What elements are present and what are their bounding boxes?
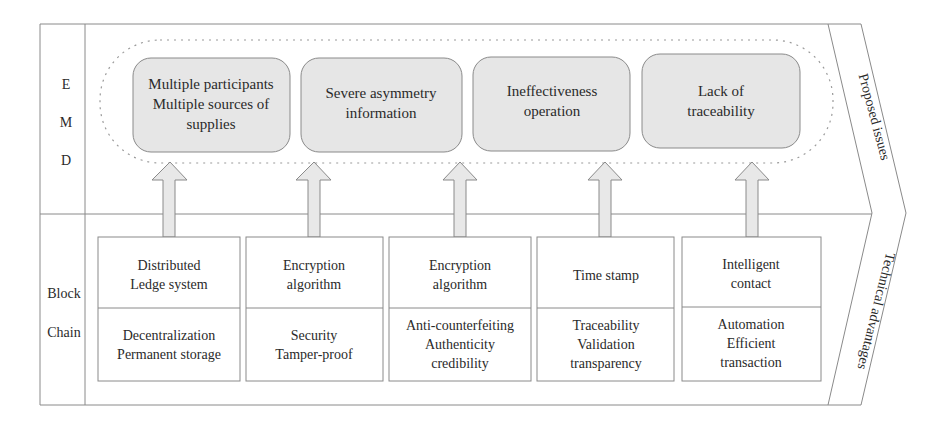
svg-text:information: information xyxy=(346,105,417,121)
tech-box-4: Time stamp Traceability Validation trans… xyxy=(537,237,674,381)
issue-box-1: Multiple participants Multiple sources o… xyxy=(133,58,290,152)
issue-box-2: Severe asymmetry information xyxy=(301,58,462,152)
svg-text:algorithm: algorithm xyxy=(287,277,342,292)
svg-text:Efficient: Efficient xyxy=(727,336,776,351)
tech-box-5: Intelligent contact Automation Efficient… xyxy=(682,237,821,381)
svg-text:M: M xyxy=(60,115,73,130)
svg-text:E: E xyxy=(62,77,71,92)
svg-text:Chain: Chain xyxy=(47,325,80,340)
svg-text:Traceability: Traceability xyxy=(572,318,639,333)
svg-text:Distributed: Distributed xyxy=(138,258,201,273)
svg-text:algorithm: algorithm xyxy=(433,277,488,292)
svg-text:Ineffectiveness: Ineffectiveness xyxy=(507,83,598,99)
svg-text:traceability: traceability xyxy=(687,103,755,119)
svg-text:credibility: credibility xyxy=(431,356,489,371)
svg-text:Multiple participants: Multiple participants xyxy=(148,76,274,92)
issue-box-3: Ineffectiveness operation xyxy=(473,57,630,151)
svg-text:Intelligent: Intelligent xyxy=(722,257,780,272)
svg-text:Multiple sources of: Multiple sources of xyxy=(153,96,270,112)
svg-text:Decentralization: Decentralization xyxy=(123,328,216,343)
svg-text:contact: contact xyxy=(731,276,772,291)
svg-text:Lack of: Lack of xyxy=(698,83,744,99)
svg-text:D: D xyxy=(61,153,71,168)
svg-text:Encryption: Encryption xyxy=(429,258,491,273)
svg-text:Anti-counterfeiting: Anti-counterfeiting xyxy=(406,318,514,333)
svg-text:Permanent storage: Permanent storage xyxy=(117,347,221,362)
svg-text:Time stamp: Time stamp xyxy=(573,268,639,283)
svg-text:transparency: transparency xyxy=(570,356,642,371)
issue-box-4: Lack of traceability xyxy=(642,54,800,148)
emd-blockchain-diagram: E M D Block Chain Proposed issues Techni… xyxy=(0,0,942,429)
svg-text:supplies: supplies xyxy=(186,116,235,132)
svg-text:Validation: Validation xyxy=(577,337,635,352)
svg-text:Block: Block xyxy=(47,286,80,301)
svg-text:Automation: Automation xyxy=(718,317,785,332)
tech-box-1: Distributed Ledge system Decentralizatio… xyxy=(98,237,240,381)
svg-text:Encryption: Encryption xyxy=(283,258,345,273)
svg-text:transaction: transaction xyxy=(720,355,781,370)
svg-text:Authenticity: Authenticity xyxy=(425,337,495,352)
svg-text:Tamper-proof: Tamper-proof xyxy=(275,347,353,362)
tech-box-3: Encryption algorithm Anti-counterfeiting… xyxy=(389,237,531,381)
svg-text:Severe asymmetry: Severe asymmetry xyxy=(325,85,437,101)
tech-box-2: Encryption algorithm Security Tamper-pro… xyxy=(246,237,383,381)
svg-text:operation: operation xyxy=(524,103,581,119)
svg-text:Ledge system: Ledge system xyxy=(130,277,207,292)
svg-text:Security: Security xyxy=(291,328,338,343)
